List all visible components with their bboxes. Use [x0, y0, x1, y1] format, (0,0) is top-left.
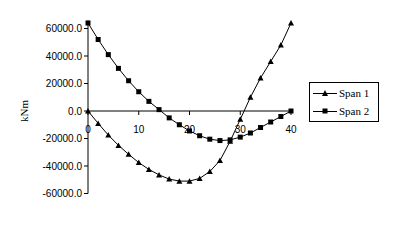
y-tick-label: -20000.0: [43, 133, 83, 144]
y-tick-label: 40000.0: [46, 51, 83, 62]
series-span-1: [85, 20, 294, 184]
triangle-marker: [197, 175, 203, 181]
y-tick-label: 20000.0: [46, 78, 83, 89]
square-marker: [289, 109, 294, 114]
square-marker: [258, 125, 263, 130]
square-marker: [157, 107, 162, 112]
square-marker: [116, 66, 121, 71]
triangle-marker: [166, 176, 172, 182]
square-marker: [278, 114, 283, 119]
triangle-marker: [247, 94, 253, 100]
square-marker: [106, 52, 111, 57]
triangle-marker: [146, 166, 152, 172]
legend-label: Span 1: [339, 87, 369, 99]
triangle-marker: [258, 75, 264, 81]
triangle-marker: [268, 59, 274, 65]
y-tick-label: 60000.0: [46, 23, 83, 34]
triangle-marker-icon: [313, 93, 337, 94]
y-axis: 60000.040000.020000.00.0-20000.0-40000.0…: [43, 21, 88, 200]
y-tick-label: -60000.0: [43, 188, 83, 199]
triangle-marker: [237, 116, 243, 122]
square-marker: [86, 21, 91, 26]
series-layer: [85, 20, 294, 184]
square-marker: [126, 78, 131, 83]
square-marker: [217, 138, 222, 143]
legend: Span 1 Span 2: [309, 82, 379, 122]
x-tick-label: 0: [85, 124, 91, 135]
square-marker: [146, 99, 151, 104]
square-marker: [197, 133, 202, 138]
triangle-marker: [156, 172, 162, 178]
y-axis-title: kNm: [18, 100, 30, 122]
square-marker: [268, 120, 273, 125]
square-marker: [187, 128, 192, 133]
y-tick-label: 0.0: [68, 106, 82, 117]
triangle-marker: [288, 20, 294, 26]
square-marker: [207, 137, 212, 142]
legend-item-span-2: Span 2: [313, 103, 369, 119]
x-tick-label: 40: [285, 124, 297, 135]
square-marker: [136, 89, 141, 94]
square-marker: [177, 122, 182, 127]
legend-label: Span 2: [339, 105, 369, 117]
triangle-marker: [217, 158, 223, 164]
triangle-marker: [278, 42, 284, 48]
y-tick-label: -40000.0: [43, 161, 83, 172]
square-marker: [167, 115, 172, 120]
square-marker: [96, 37, 101, 42]
x-tick-label: 30: [235, 124, 247, 135]
square-marker: [228, 137, 233, 142]
x-tick-label: 10: [133, 124, 145, 135]
square-marker: [248, 131, 253, 136]
square-marker: [238, 135, 243, 140]
square-marker-icon: [313, 111, 337, 112]
legend-item-span-1: Span 1: [313, 85, 369, 101]
